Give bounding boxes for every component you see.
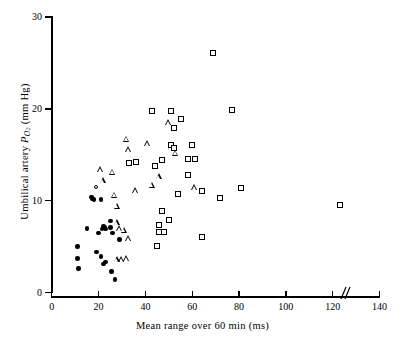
- data-point-open-triangle: [111, 192, 117, 198]
- data-point-open-square: [161, 229, 167, 235]
- y-axis-title: Umbilical artery PO2 (mm Hg): [19, 22, 32, 282]
- data-point-open-triangle: [109, 169, 115, 175]
- data-point-open-square: [192, 156, 198, 162]
- data-point-open-square: [337, 202, 343, 208]
- data-point-filled-circle: [85, 226, 90, 231]
- data-point-open-triangle: [100, 177, 106, 183]
- data-point-filled-circle: [108, 225, 113, 230]
- data-point-open-square: [210, 50, 216, 56]
- data-point-open-square: [199, 234, 205, 240]
- data-point-open-square: [238, 185, 244, 191]
- data-point-open-square: [154, 243, 160, 249]
- data-point-open-square: [152, 163, 158, 169]
- y-axis-title-suffix: (mm Hg): [19, 83, 30, 127]
- data-markers: [0, 0, 405, 339]
- data-point-filled-circle: [109, 269, 114, 274]
- data-point-open-triangle: [123, 136, 129, 142]
- data-point-open-square: [159, 208, 165, 214]
- data-point-open-square: [168, 108, 174, 114]
- data-point-open-square: [199, 188, 205, 194]
- y-axis-title-prefix: Umbilical artery: [19, 143, 30, 220]
- data-point-filled-circle: [117, 237, 122, 242]
- data-point-open-triangle: [125, 146, 131, 152]
- data-point-filled-circle: [76, 266, 81, 271]
- data-point-open-triangle: [114, 256, 120, 262]
- data-point-filled-circle: [94, 250, 99, 255]
- data-point-open-triangle: [121, 227, 127, 233]
- data-point-open-square: [185, 172, 191, 178]
- data-point-open-square: [126, 160, 132, 166]
- data-point-filled-circle: [92, 197, 97, 202]
- data-point-filled-circle: [96, 231, 101, 236]
- data-point-open-circle: [94, 185, 98, 189]
- y-axis-title-subscript: O2: [23, 127, 32, 136]
- data-point-filled-circle: [103, 260, 108, 265]
- data-point-open-square: [178, 116, 184, 122]
- data-point-open-triangle: [125, 235, 131, 241]
- data-point-open-triangle: [156, 173, 162, 179]
- data-point-open-square: [217, 195, 223, 201]
- data-point-filled-circle: [99, 254, 104, 259]
- data-point-filled-circle: [110, 231, 115, 236]
- data-point-filled-circle: [75, 256, 80, 261]
- data-point-open-square: [159, 157, 165, 163]
- data-point-open-square: [166, 217, 172, 223]
- chart-page: 0102030020406080100120140 Mean range ove…: [0, 0, 405, 339]
- data-point-filled-circle: [113, 277, 118, 282]
- data-point-open-square: [133, 159, 139, 165]
- data-point-open-square: [185, 156, 191, 162]
- x-axis-title: Mean range over 60 min (ms): [0, 320, 405, 331]
- data-point-filled-circle: [108, 219, 113, 224]
- data-point-open-square: [149, 108, 155, 114]
- data-point-filled-circle: [75, 244, 80, 249]
- data-point-open-square: [171, 145, 177, 151]
- data-point-open-square: [156, 222, 162, 228]
- data-point-open-triangle: [97, 166, 103, 172]
- data-point-open-square: [229, 107, 235, 113]
- data-point-open-triangle: [114, 203, 120, 209]
- data-point-open-triangle: [191, 184, 197, 190]
- data-point-open-square: [189, 142, 195, 148]
- data-point-filled-circle: [99, 197, 104, 202]
- data-point-open-triangle: [132, 187, 138, 193]
- data-point-open-triangle: [144, 140, 150, 146]
- y-axis-title-symbol: P: [19, 136, 30, 143]
- data-point-open-square: [175, 191, 181, 197]
- data-point-open-triangle: [149, 182, 155, 188]
- data-point-open-square: [171, 125, 177, 131]
